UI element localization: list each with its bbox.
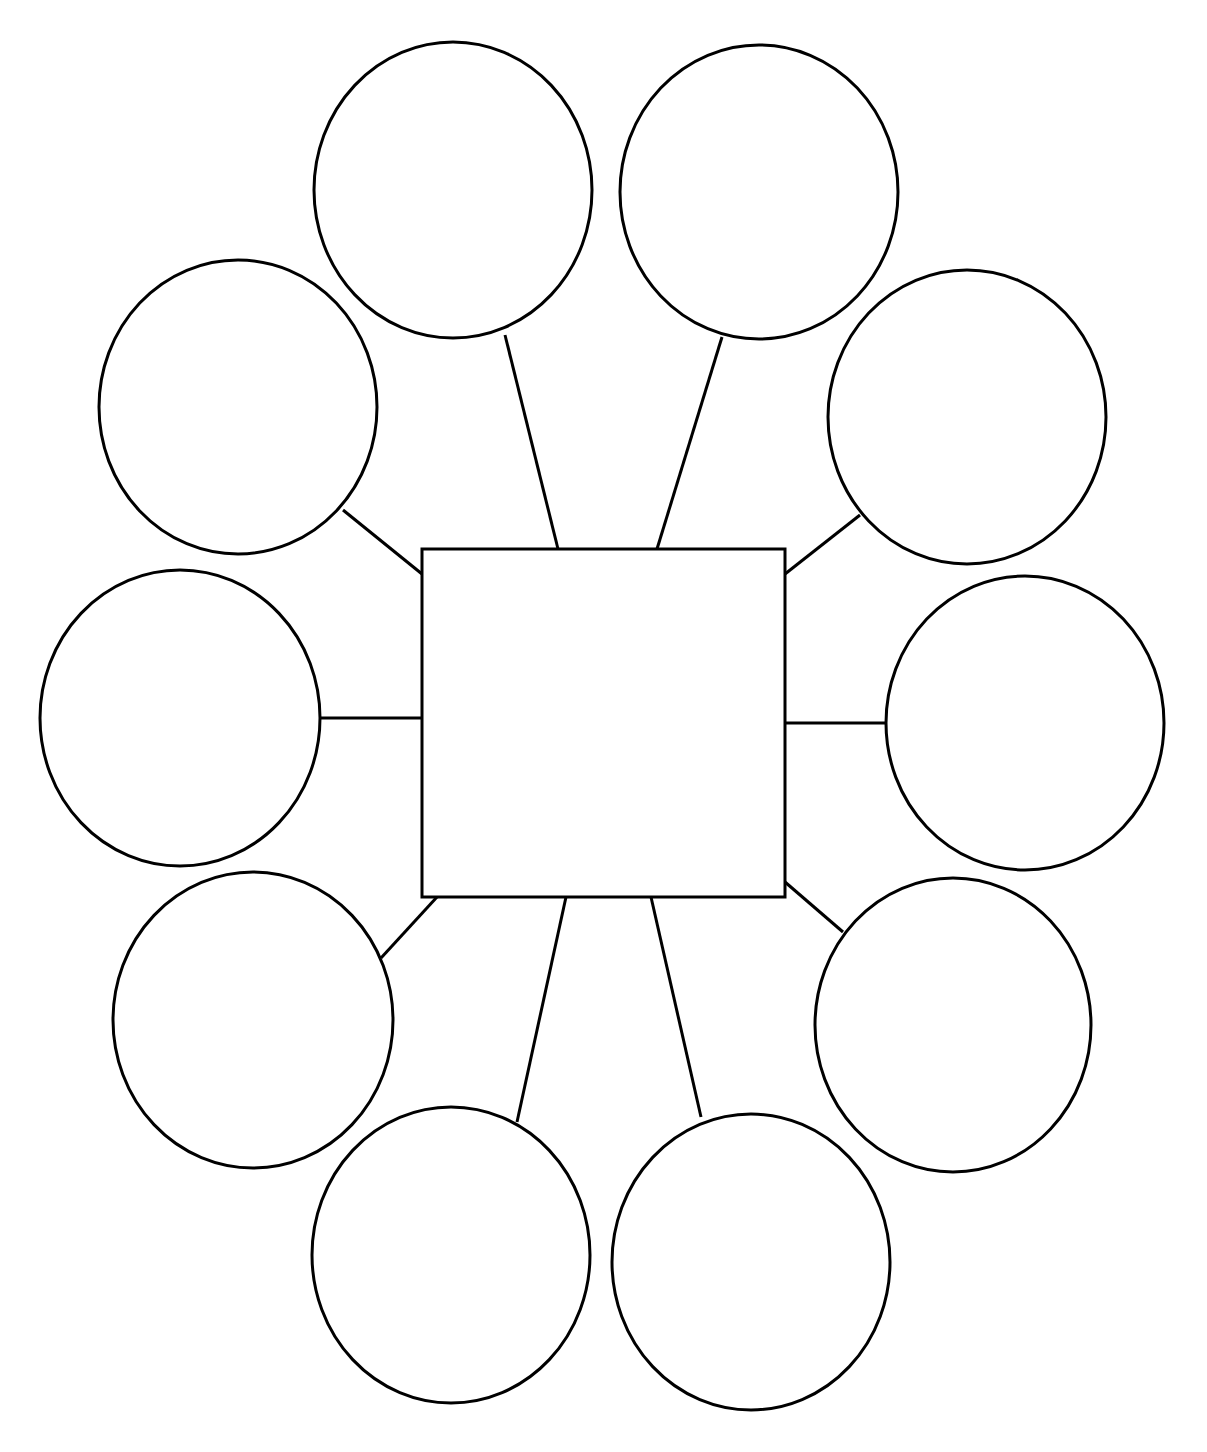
connector-line-upper-left [343, 510, 422, 574]
connector-line-lower-right [785, 882, 843, 932]
bubble-top-left[interactable] [314, 42, 592, 338]
connector-line-top-right [657, 337, 722, 549]
connector-line-lower-left [381, 897, 437, 958]
connector-line-bottom-right [651, 897, 701, 1117]
bubble-top-right[interactable] [620, 45, 898, 339]
center-topic-box[interactable] [422, 549, 785, 897]
bubble-bottom-right[interactable] [612, 1114, 890, 1410]
bubble-lower-right[interactable] [815, 878, 1091, 1172]
bubble-lower-left[interactable] [113, 872, 393, 1168]
bubble-middle-left[interactable] [40, 570, 320, 866]
bubble-middle-right[interactable] [886, 576, 1164, 870]
connector-line-top-left [505, 335, 558, 549]
bubble-upper-left[interactable] [99, 260, 377, 554]
connector-line-bottom-left [517, 897, 566, 1122]
connector-line-upper-right [785, 515, 860, 574]
bubble-upper-right[interactable] [828, 270, 1106, 564]
bubble-map-diagram [0, 0, 1207, 1452]
bubble-bottom-left[interactable] [312, 1107, 590, 1403]
